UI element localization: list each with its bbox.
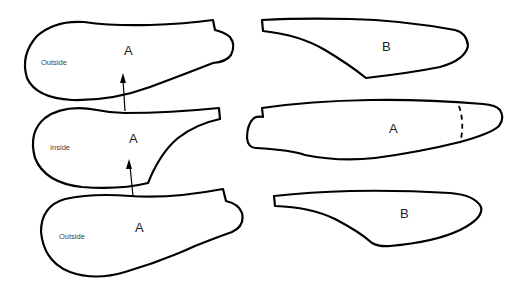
side-label: Inside [50, 143, 70, 152]
piece-label: B [382, 39, 391, 54]
piece-right-bottom: B [274, 191, 481, 246]
piece-right-top: B [262, 19, 468, 78]
piece-label: A [129, 131, 138, 146]
piece-left-top: A Outside [25, 20, 233, 100]
piece-label: A [124, 43, 133, 58]
piece-label: A [135, 220, 144, 235]
piece-label: A [389, 121, 398, 136]
side-label: Outside [41, 58, 67, 67]
side-label: Outside [59, 232, 85, 241]
piece-label: B [400, 206, 409, 221]
pattern-diagram: A Outside A Inside A Outside B A B [0, 0, 522, 289]
piece-right-middle: A [247, 100, 502, 160]
piece-left-middle: A Inside [33, 108, 220, 188]
piece-left-bottom: A Outside [41, 189, 243, 277]
